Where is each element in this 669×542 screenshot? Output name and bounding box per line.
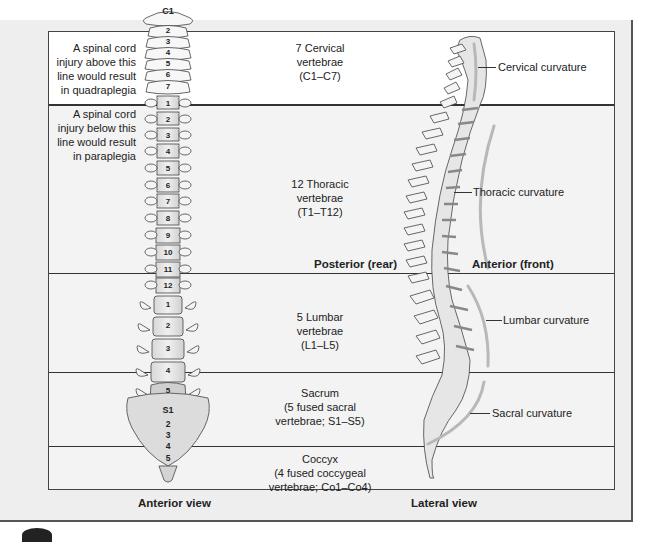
posterior-label: Posterior (rear) [314,257,397,271]
vertebra-label-t8: 8 [158,212,178,226]
region-label-coccyx: Coccyx (4 fused coccygeal vertebrae; Co1… [250,452,390,494]
vertebra-label-t7: 7 [158,195,178,209]
anterior-label: Anterior (front) [472,257,554,271]
sacral-leader-line [470,413,490,414]
vertebra-label-t3: 3 [158,129,178,143]
vertebra-label-l3: 3 [158,342,178,356]
cervical-leader-line [478,67,496,68]
vertebra-label-t6: 6 [158,179,178,193]
vertebra-label-t10: 10 [158,246,178,260]
vertebra-label-s1: S1 [156,403,180,417]
vertebra-label-t5: 5 [158,162,178,176]
page-corner-mark [22,528,52,542]
sacral-curvature-label: Sacral curvature [492,406,572,420]
lumbar-leader-line [486,320,502,321]
vertebra-label-t12: 12 [158,279,178,293]
paraplegia-note: A spinal cord injury below this line wou… [50,107,136,163]
lateral-view-caption: Lateral view [411,496,477,510]
vertebra-label-s5: 5 [158,451,178,465]
vertebra-label-t2: 2 [158,113,178,127]
vertebra-label-t4: 4 [158,145,178,159]
vertebra-label-t1: 1 [158,97,178,111]
anterior-view-caption: Anterior view [138,496,211,510]
vertebra-label-c1: C1 [158,4,178,18]
quadraplegia-note: A spinal cord injury above this line wou… [50,41,136,97]
vertebra-label-l2: 2 [158,319,178,333]
vertebra-label-l5: 5 [158,384,178,398]
lumbar-curvature-label: Lumbar curvature [503,313,589,327]
vertebra-label-l1: 1 [158,298,178,312]
region-label-lumbar: 5 Lumbar vertebrae (L1–L5) [260,310,380,352]
vertebra-label-c7: 7 [158,80,178,94]
thoracic-leader-line [454,192,472,193]
vertebra-label-l4: 4 [158,364,178,378]
region-label-sacrum: Sacrum (5 fused sacral vertebrae; S1–S5) [260,386,380,428]
thoracic-curvature-label: Thoracic curvature [473,185,564,199]
vertebra-label-t11: 11 [158,263,178,277]
region-label-thoracic: 12 Thoracic vertebrae (T1–T12) [260,177,380,219]
vertebra-label-t9: 9 [158,229,178,243]
region-label-cervical: 7 Cervical vertebrae (C1–C7) [260,41,380,83]
cervical-curvature-label: Cervical curvature [498,60,587,74]
